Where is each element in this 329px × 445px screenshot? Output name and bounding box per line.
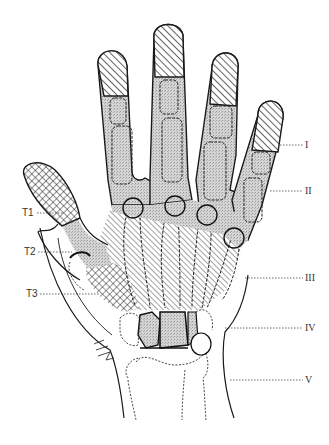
label-zone-iii: III <box>305 273 315 283</box>
label-zone-iv: IV <box>305 323 316 333</box>
label-zone-ii: II <box>305 186 312 196</box>
hand-zone-diagram <box>0 0 329 445</box>
label-t3: T3 <box>26 289 38 299</box>
label-t2: T2 <box>24 247 36 257</box>
forearm-bones <box>126 352 208 420</box>
label-zone-i: I <box>305 140 308 150</box>
artist-signature <box>94 340 114 360</box>
carpal-bones <box>120 310 213 355</box>
label-t1: T1 <box>22 208 34 218</box>
label-zone-v: V <box>305 375 312 385</box>
